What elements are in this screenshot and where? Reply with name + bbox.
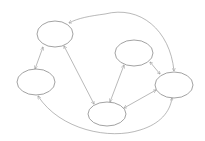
- edge-a-b: [35, 47, 43, 69]
- nodes: [17, 21, 193, 126]
- node-b[interactable]: [17, 69, 55, 95]
- edge-c-e: [110, 65, 124, 102]
- edge-e-d: [124, 90, 156, 108]
- graph-diagram: [0, 0, 205, 141]
- node-c[interactable]: [115, 40, 153, 66]
- node-a[interactable]: [37, 21, 73, 47]
- node-e[interactable]: [88, 102, 126, 126]
- edge-a-e: [64, 46, 94, 104]
- edge-c-d: [150, 62, 160, 74]
- diagram-svg: [0, 0, 205, 141]
- node-d[interactable]: [155, 72, 193, 98]
